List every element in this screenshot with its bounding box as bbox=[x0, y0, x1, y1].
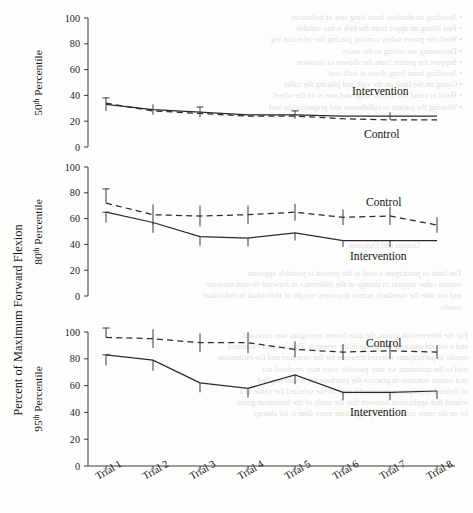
ytick-40: 40 bbox=[70, 407, 80, 418]
xtick-trial-4: Trial 4 bbox=[236, 458, 266, 482]
panel-50-y-ticklabels: 100 80 60 40 20 0 bbox=[65, 13, 80, 153]
panel-80-y-ticklabels: 100 80 60 40 20 0 bbox=[65, 162, 80, 302]
panel-50-label-intervention: Intervention bbox=[352, 85, 409, 98]
panel-50-y-ticks bbox=[84, 18, 88, 147]
xtick-trial-5: Trial 5 bbox=[283, 458, 313, 482]
panel-50-label-control: Control bbox=[364, 128, 399, 141]
ytick-0: 0 bbox=[75, 461, 80, 472]
xtick-trial-1: Trial 1 bbox=[94, 458, 124, 482]
ytick-100: 100 bbox=[65, 162, 80, 173]
xtick-trial-3: Trial 3 bbox=[188, 458, 218, 482]
panel-95-y-ticks bbox=[84, 332, 88, 466]
xtick-trial-6: Trial 6 bbox=[331, 458, 361, 482]
panel-95-y-ticklabels: 100 80 60 40 20 0 bbox=[65, 327, 80, 472]
ytick-20: 20 bbox=[70, 434, 80, 445]
chart-svg: Percent of Maximum Forward Flexion 50th … bbox=[0, 0, 473, 513]
panel-80-label-intervention: Intervention bbox=[350, 250, 407, 263]
xtick-trial-8: Trial 8 bbox=[425, 458, 455, 482]
panel-80-series-intervention bbox=[106, 212, 437, 240]
ytick-0: 0 bbox=[75, 142, 80, 153]
ytick-60: 60 bbox=[70, 213, 80, 224]
x-axis-tick-labels: Trial 1 Trial 2 Trial 3 Trial 4 Trial 5 … bbox=[94, 458, 455, 482]
ytick-20: 20 bbox=[70, 265, 80, 276]
ytick-100: 100 bbox=[65, 327, 80, 338]
panel-50-label: 50th Percentile bbox=[32, 50, 44, 116]
panel-95-label-control: Control bbox=[366, 337, 401, 350]
ytick-80: 80 bbox=[70, 353, 80, 364]
xtick-trial-2: Trial 2 bbox=[141, 458, 171, 482]
ytick-60: 60 bbox=[70, 64, 80, 75]
xtick-trial-7: Trial 7 bbox=[378, 458, 408, 482]
panel-95-label-intervention: Intervention bbox=[350, 406, 407, 419]
figure-forward-flexion: Percent of Maximum Forward Flexion 50th … bbox=[0, 0, 473, 513]
panel-50-series-control bbox=[106, 103, 437, 120]
panel-80-label-control: Control bbox=[366, 196, 401, 209]
ytick-80: 80 bbox=[70, 38, 80, 49]
panel-50-series-intervention bbox=[106, 104, 437, 116]
panel-95-series-intervention bbox=[106, 355, 437, 393]
panel-95-label: 95th Percentile bbox=[32, 366, 44, 432]
ytick-60: 60 bbox=[70, 380, 80, 391]
ytick-80: 80 bbox=[70, 187, 80, 198]
panel-80th-percentile: 80th Percentile 100 80 60 40 20 0 bbox=[32, 162, 437, 302]
ytick-40: 40 bbox=[70, 239, 80, 250]
ytick-0: 0 bbox=[75, 291, 80, 302]
y-axis-title: Percent of Maximum Forward Flexion bbox=[11, 224, 25, 415]
ytick-40: 40 bbox=[70, 90, 80, 101]
panel-80-label: 80th Percentile bbox=[32, 199, 44, 265]
panel-95th-percentile: 95th Percentile 100 80 60 40 20 0 bbox=[32, 327, 455, 472]
panel-50th-percentile: 50th Percentile 100 80 60 40 20 0 bbox=[32, 13, 437, 153]
ytick-20: 20 bbox=[70, 116, 80, 127]
ytick-100: 100 bbox=[65, 13, 80, 24]
panel-80-y-ticks bbox=[84, 167, 88, 296]
